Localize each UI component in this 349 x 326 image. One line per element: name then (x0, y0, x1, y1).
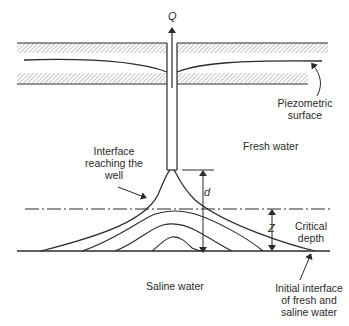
fresh-water-label: Fresh water (243, 140, 298, 152)
interface-reaching-well-label: Interface reaching the well (74, 145, 154, 181)
discharge-symbol: Q (168, 10, 177, 22)
interface-curve-1 (82, 211, 263, 251)
interface-curve-3 (152, 237, 204, 251)
initial-interface-label: Initial interface of fresh and saline wa… (266, 282, 349, 318)
interface-reaching-well-curve (41, 170, 315, 251)
piezometric-pointer-arrow (313, 65, 320, 96)
z-symbol: Z (268, 222, 275, 234)
saline-water-label: Saline water (146, 280, 204, 292)
piezometric-surface-label: Piezometric surface (265, 97, 345, 121)
piezometric-surface-line (24, 60, 322, 73)
well (167, 30, 177, 170)
d-symbol: d (204, 186, 210, 198)
upconing-diagram (0, 0, 349, 326)
lower-confining-layer (17, 73, 308, 84)
critical-depth-label: Critical depth (284, 220, 338, 244)
initial-interface-pointer-arrow (300, 256, 310, 280)
interface-pointer-arrow (118, 187, 144, 197)
